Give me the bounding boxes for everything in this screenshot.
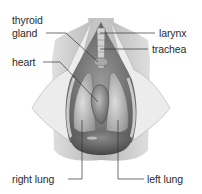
label-thyroid-line2: gland bbox=[12, 27, 37, 39]
label-trachea: trachea bbox=[152, 43, 186, 55]
label-heart: heart bbox=[12, 56, 35, 68]
label-thyroid-line1: thyroid bbox=[12, 14, 43, 26]
anatomy-diagram: thyroid gland larynx trachea heart right… bbox=[0, 0, 202, 194]
thyroid-gland bbox=[94, 58, 108, 66]
label-right-lung: right lung bbox=[12, 173, 54, 185]
label-left-lung: left lung bbox=[147, 173, 183, 185]
diaphragm-highlight bbox=[87, 137, 97, 140]
label-larynx: larynx bbox=[159, 27, 186, 39]
